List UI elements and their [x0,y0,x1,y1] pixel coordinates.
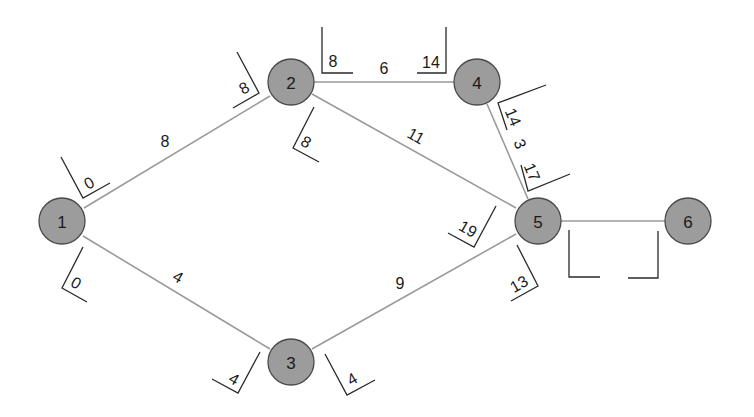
time-box-3-5-end: 13 [507,245,538,301]
node-6: 6 [665,198,711,244]
node-5-label: 5 [533,213,542,232]
edge-weight-3-5: 9 [396,275,405,292]
node-2-label: 2 [286,74,295,93]
edge-weight-1-3: 4 [170,267,186,286]
node-4-label: 4 [472,74,481,93]
svg-text:19: 19 [456,217,480,241]
svg-text:0: 0 [81,173,97,192]
svg-text:0: 0 [68,273,84,292]
time-box-1-3-start: 0 [62,247,87,302]
svg-text:4: 4 [226,369,242,388]
edge-1-3 [83,236,270,349]
node-3: 3 [268,339,314,385]
svg-text:4: 4 [344,369,360,388]
edge-weight-2-4: 6 [380,60,389,77]
time-box-1-2-end: 8 [233,52,259,108]
node-6-label: 6 [683,213,692,232]
edge-2-5 [312,94,516,208]
node-3-label: 3 [286,354,295,373]
node-5: 5 [515,198,561,244]
time-box-4-5-end: 17 [521,160,570,191]
svg-text:17: 17 [521,160,544,183]
svg-text:8: 8 [329,53,338,70]
svg-text:14: 14 [422,54,440,71]
node-1: 1 [39,198,85,244]
time-box-1-2-start: 0 [61,157,110,198]
edges [83,82,665,349]
time-box-4-5-start: 14 [498,85,546,130]
time-box-5-6-end [628,231,658,278]
edge-weight-1-2: 8 [161,133,170,150]
node-1-label: 1 [57,213,66,232]
edge-1-2 [84,96,270,208]
node-2: 2 [268,59,314,105]
time-box-3-5-start: 4 [325,354,375,395]
node-4: 4 [454,59,500,105]
svg-text:8: 8 [298,132,314,151]
nodes: 1 2 3 4 5 6 [39,59,711,385]
edge-weight-2-5: 11 [405,125,428,148]
time-box-2-4-start: 8 [322,27,353,73]
time-box-5-6-start [569,230,600,277]
time-box-1-3-end: 4 [212,352,260,393]
time-box-2-4-end: 14 [417,27,446,73]
time-box-2-5-start: 8 [293,107,319,162]
edge-3-5 [312,234,516,349]
network-diagram: 8 4 6 11 9 3 0 8 0 4 8 [0,0,754,417]
edge-weight-4-5: 3 [510,137,529,152]
svg-text:8: 8 [236,78,252,97]
time-box-2-5-end: 19 [448,206,496,247]
